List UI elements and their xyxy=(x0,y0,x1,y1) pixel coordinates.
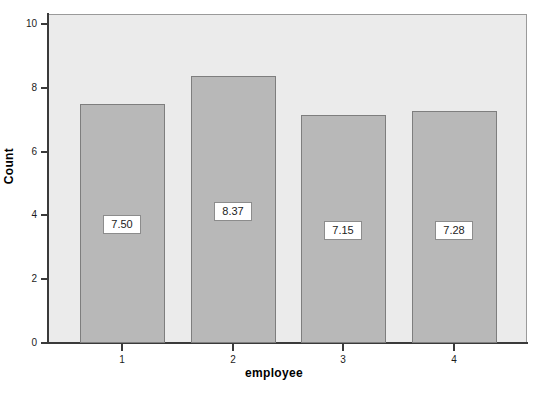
y-tick-mark xyxy=(41,87,48,89)
y-axis-title: Count xyxy=(2,148,22,184)
y-tick-mark xyxy=(41,151,48,153)
y-tick-mark xyxy=(41,342,48,344)
x-tick-label: 2 xyxy=(213,354,253,365)
bar-value-label: 7.15 xyxy=(324,221,362,240)
x-tick-mark xyxy=(342,344,344,351)
y-tick-label: 10 xyxy=(26,19,37,29)
y-tick-mark xyxy=(41,23,48,25)
x-tick-mark xyxy=(232,344,234,351)
x-tick-label: 3 xyxy=(323,354,363,365)
bar-chart-figure: 0246810 1234 7.508.377.157.28 Count empl… xyxy=(0,0,548,396)
bar-value-label: 7.50 xyxy=(103,215,141,234)
y-tick-label: 6 xyxy=(31,147,37,157)
y-axis-line xyxy=(47,13,49,344)
y-tick-label: 0 xyxy=(31,338,37,348)
y-tick-label: 4 xyxy=(31,210,37,220)
x-tick-label: 1 xyxy=(102,354,142,365)
x-tick-label: 4 xyxy=(434,354,474,365)
x-axis-title: employee xyxy=(0,366,548,380)
x-tick-mark xyxy=(121,344,123,351)
y-tick-label: 8 xyxy=(31,83,37,93)
y-tick-mark xyxy=(41,214,48,216)
y-tick-mark xyxy=(41,278,48,280)
x-tick-mark xyxy=(453,344,455,351)
bar-value-label: 7.28 xyxy=(435,221,473,240)
y-tick-label: 2 xyxy=(31,274,37,284)
bar-value-label: 8.37 xyxy=(214,202,252,221)
